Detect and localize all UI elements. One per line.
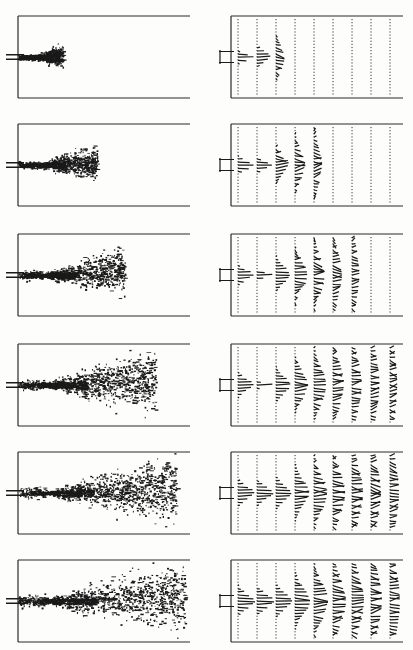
flow-visualization-panel: [6, 341, 192, 429]
flow-visualization-panel: [6, 557, 192, 645]
velocity-vector-panel: [219, 231, 405, 319]
velocity-vector-panel: [219, 121, 405, 209]
flow-visualization-panel: [6, 121, 192, 209]
velocity-vector-panel: [219, 13, 405, 101]
jet-flow-figure: [0, 0, 413, 650]
velocity-vector-panel: [219, 449, 405, 537]
flow-visualization-panel: [6, 231, 192, 319]
flow-visualization-panel: [6, 13, 192, 101]
velocity-vector-panel: [219, 341, 405, 429]
flow-visualization-panel: [6, 449, 192, 537]
velocity-vector-panel: [219, 557, 405, 645]
